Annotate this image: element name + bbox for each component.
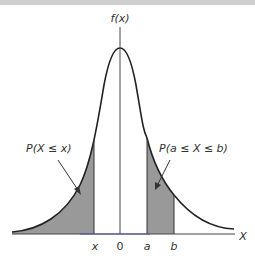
- left-annotation-arrow: [58, 160, 78, 190]
- normal-distribution-diagram: f(x) X x 0 a b P(X ≤ x) P(a ≤ X ≤ b): [0, 0, 255, 260]
- right-area-annotation: P(a ≤ X ≤ b): [159, 142, 228, 155]
- density-curve: [12, 48, 234, 232]
- tick-label-a: a: [144, 240, 151, 253]
- left-area-annotation: P(X ≤ x): [26, 142, 71, 155]
- y-axis-label: f(x): [111, 12, 130, 25]
- tick-label-x: x: [91, 240, 99, 253]
- x-axis-label: X: [238, 230, 247, 243]
- tick-label-b: b: [171, 240, 178, 253]
- tick-label-zero: 0: [117, 240, 124, 253]
